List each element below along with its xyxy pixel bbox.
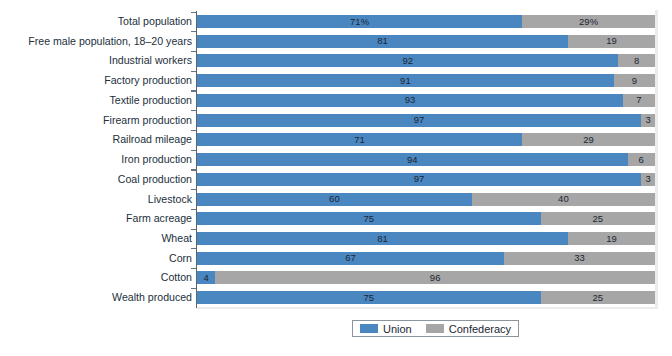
category-label: Farm acreage <box>126 212 192 225</box>
bar-value-union: 93 <box>197 95 623 105</box>
axis-tick <box>191 130 196 131</box>
bar-value-union: 75 <box>197 293 541 303</box>
bar-value-union: 97 <box>197 174 641 184</box>
bar-value-union: 67 <box>197 253 504 263</box>
bar-value-union: 81 <box>197 36 568 46</box>
bar-segment-union: 4 <box>197 271 215 284</box>
bar-segment-confederacy: 9 <box>614 74 655 87</box>
axis-tick <box>191 150 196 151</box>
category-label: Railroad mileage <box>113 133 193 146</box>
bar-segment-union: 71 <box>197 133 522 146</box>
bar-value-confederacy: 33 <box>504 253 655 263</box>
bar-row: 946 <box>197 153 655 166</box>
bar-segment-confederacy: 25 <box>541 212 656 225</box>
bar-segment-union: 75 <box>197 291 541 304</box>
bar-segment-confederacy: 40 <box>472 193 655 206</box>
bar-segment-union: 97 <box>197 114 641 127</box>
axis-tick <box>191 31 196 32</box>
bar-value-confederacy: 9 <box>614 76 655 86</box>
axis-tick <box>191 110 196 111</box>
axis-tick <box>191 189 196 190</box>
bar-segment-confederacy: 29% <box>522 15 655 28</box>
category-label: Free male population, 18–20 years <box>28 35 192 48</box>
bar-row: 937 <box>197 94 655 107</box>
bar-segment-confederacy: 8 <box>618 54 655 67</box>
axis-tick <box>191 51 196 52</box>
axis-tick <box>191 71 196 72</box>
category-label: Wheat <box>161 232 192 245</box>
legend-label: Union <box>383 323 412 335</box>
bar-row: 7129 <box>197 133 655 146</box>
bar-row: 6040 <box>197 193 655 206</box>
legend-swatch-confederacy-icon <box>426 324 444 333</box>
legend-swatch-union-icon <box>360 324 378 333</box>
axis-tick <box>191 90 196 91</box>
category-label: Livestock <box>148 193 192 206</box>
bar-value-confederacy: 96 <box>215 273 655 283</box>
bar-row: 496 <box>197 271 655 284</box>
bar-value-union: 60 <box>197 194 472 204</box>
bar-segment-confederacy: 19 <box>568 35 655 48</box>
bar-segment-confederacy: 96 <box>215 271 655 284</box>
bar-row: 8119 <box>197 35 655 48</box>
bar-value-confederacy: 29% <box>522 17 655 27</box>
bar-row: 919 <box>197 74 655 87</box>
axis-tick <box>191 229 196 230</box>
bar-segment-confederacy: 25 <box>541 291 656 304</box>
bar-value-confederacy: 40 <box>472 194 655 204</box>
bar-segment-union: 60 <box>197 193 472 206</box>
category-label: Cotton <box>161 271 192 284</box>
bar-row: 928 <box>197 54 655 67</box>
bar-segment-union: 75 <box>197 212 541 225</box>
axis-tick <box>191 288 196 289</box>
axis-tick <box>191 169 196 170</box>
category-label: Industrial workers <box>109 54 192 67</box>
bar-row: 973 <box>197 114 655 127</box>
bar-segment-union: 94 <box>197 153 628 166</box>
bar-segment-union: 92 <box>197 54 618 67</box>
bar-value-confederacy: 25 <box>541 214 656 224</box>
bar-value-confederacy: 25 <box>541 293 656 303</box>
bar-segment-confederacy: 19 <box>568 232 655 245</box>
bar-segment-union: 91 <box>197 74 614 87</box>
bar-row: 6733 <box>197 252 655 265</box>
category-label: Textile production <box>110 94 192 107</box>
bar-segment-union: 81 <box>197 35 568 48</box>
bar-value-union: 94 <box>197 155 628 165</box>
bar-value-union: 91 <box>197 76 614 86</box>
bar-row: 7525 <box>197 212 655 225</box>
bar-row: 7525 <box>197 291 655 304</box>
bar-value-confederacy: 7 <box>623 95 655 105</box>
axis-tick <box>191 248 196 249</box>
legend-entry: Union <box>360 323 412 335</box>
legend-label: Confederacy <box>449 323 511 335</box>
bar-segment-confederacy: 6 <box>628 153 655 166</box>
bar-value-union: 81 <box>197 234 568 244</box>
bar-segment-confederacy: 3 <box>641 173 655 186</box>
bar-value-union: 71 <box>197 135 522 145</box>
stacked-bar-chart: 71%29%8119928919937973712994697360407525… <box>0 0 672 356</box>
category-label: Corn <box>169 252 192 265</box>
category-label: Total population <box>118 15 192 28</box>
category-label: Coal production <box>118 173 192 186</box>
bar-row: 71%29% <box>197 15 655 28</box>
bar-row: 973 <box>197 173 655 186</box>
bar-row: 8119 <box>197 232 655 245</box>
bar-segment-confederacy: 7 <box>623 94 655 107</box>
bar-value-confederacy: 8 <box>618 56 655 66</box>
chart-legend: UnionConfederacy <box>352 320 519 337</box>
bar-value-confederacy: 19 <box>568 36 655 46</box>
category-label: Wealth produced <box>112 291 192 304</box>
axis-tick <box>191 12 196 13</box>
bar-value-union: 92 <box>197 56 618 66</box>
bar-segment-union: 97 <box>197 173 641 186</box>
axis-tick <box>191 209 196 210</box>
bar-segment-union: 67 <box>197 252 504 265</box>
bar-value-confederacy: 6 <box>628 155 655 165</box>
bar-segment-confederacy: 3 <box>641 114 655 127</box>
bar-value-union: 4 <box>197 273 215 283</box>
bar-segment-confederacy: 33 <box>504 252 655 265</box>
bar-value-confederacy: 29 <box>522 135 655 145</box>
category-label: Iron production <box>121 153 192 166</box>
category-label: Factory production <box>104 74 192 87</box>
